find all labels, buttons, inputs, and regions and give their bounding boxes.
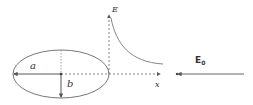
label-a: a — [30, 60, 36, 71]
ellipse-field-diagram: a b E x E0 — [0, 0, 253, 105]
field-decay-curve — [111, 18, 163, 64]
label-b: b — [67, 78, 73, 89]
label-e-axis: E — [111, 5, 118, 14]
label-applied-field-sub: 0 — [201, 59, 205, 66]
applied-field-arrow-tip-dot — [176, 73, 178, 75]
label-x-axis: x — [155, 80, 160, 89]
label-applied-field: E0 — [195, 55, 205, 66]
